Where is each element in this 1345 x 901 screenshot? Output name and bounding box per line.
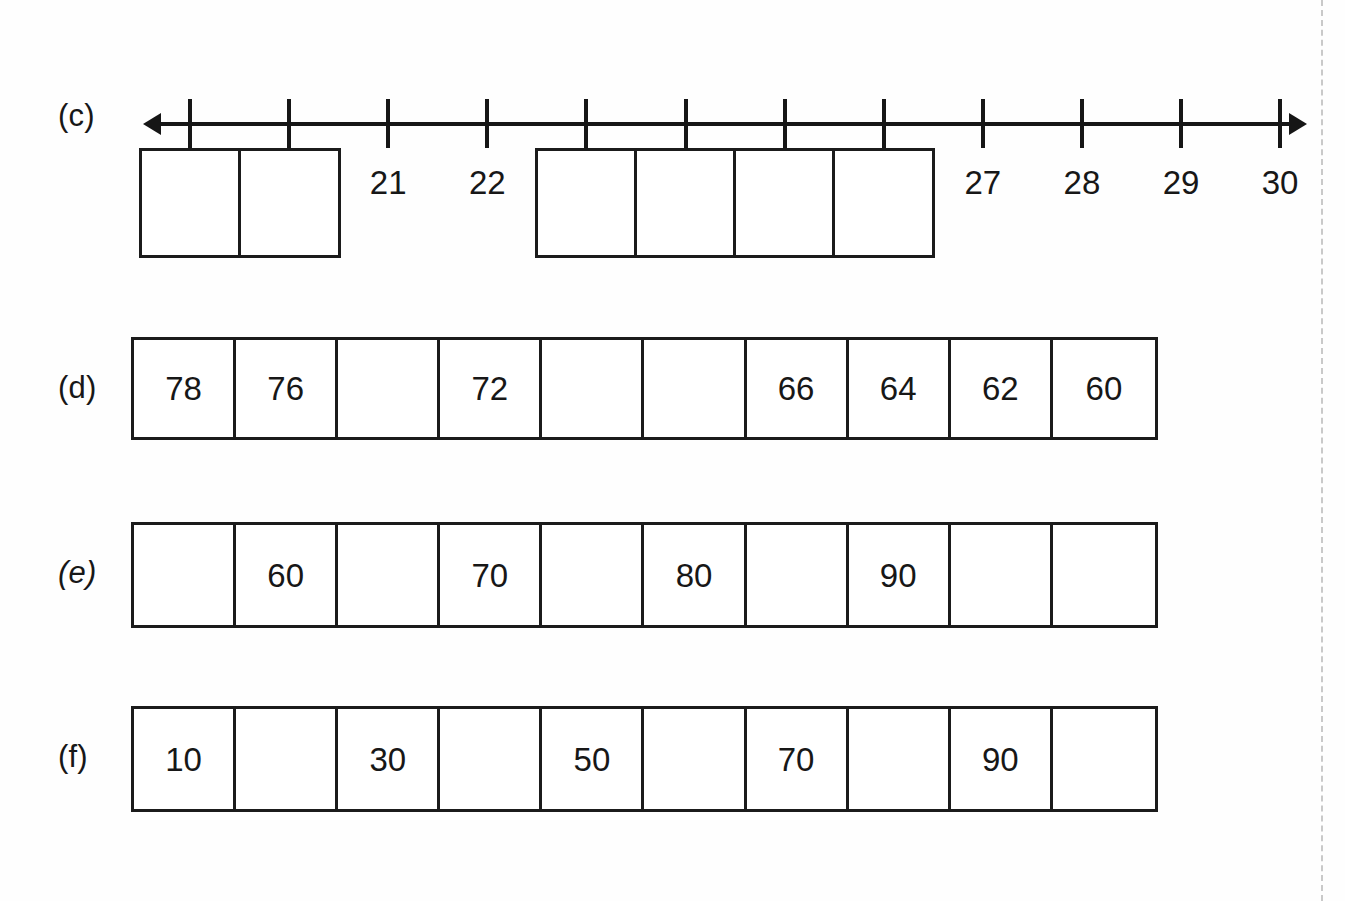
sequence-value-cell: 72: [440, 340, 542, 437]
number-line-left-arrow-icon: [143, 113, 161, 135]
number-line-tick: [188, 99, 192, 148]
part-label-f: (f): [58, 741, 88, 772]
sequence-answer-cell[interactable]: [747, 525, 849, 625]
sequence-answer-cell[interactable]: [542, 340, 644, 437]
sequence-answer-cell[interactable]: [236, 709, 338, 809]
sequence-answer-cell[interactable]: [849, 709, 951, 809]
sequence-value-cell: 90: [849, 525, 951, 625]
part-d-sequence-strip: 78767266646260: [131, 337, 1158, 440]
sequence-answer-cell[interactable]: [338, 340, 440, 437]
number-line-right-arrow-icon: [1289, 113, 1307, 135]
sequence-value-cell: 90: [951, 709, 1053, 809]
worksheet-page: (c) 212227282930 (d) 78767266646260 (e) …: [0, 0, 1345, 901]
number-line-tick: [981, 99, 985, 148]
number-line-value: 28: [1030, 164, 1133, 202]
sequence-answer-cell[interactable]: [1053, 525, 1155, 625]
number-line-value: 27: [931, 164, 1034, 202]
sequence-value-cell: 78: [134, 340, 236, 437]
part-label-d: (d): [58, 372, 97, 403]
number-line-tick: [1179, 99, 1183, 148]
sequence-value-cell: 50: [542, 709, 644, 809]
number-line-answer-box[interactable]: [139, 148, 242, 258]
number-line-answer-box[interactable]: [238, 148, 341, 258]
part-e-sequence-strip: 60708090: [131, 522, 1158, 628]
sequence-answer-cell[interactable]: [134, 525, 236, 625]
number-line-answer-box[interactable]: [832, 148, 935, 258]
sequence-value-cell: 70: [440, 525, 542, 625]
sequence-answer-cell[interactable]: [338, 525, 440, 625]
number-line-tick: [386, 99, 390, 148]
part-label-e: (e): [58, 557, 97, 588]
number-line-tick: [485, 99, 489, 148]
sequence-value-cell: 66: [747, 340, 849, 437]
number-line-tick: [783, 99, 787, 148]
sequence-value-cell: 62: [951, 340, 1053, 437]
number-line-answer-box[interactable]: [535, 148, 638, 258]
number-line-tick: [882, 99, 886, 148]
part-c-number-line: 212227282930: [0, 0, 1345, 280]
part-f-sequence-strip: 1030507090: [131, 706, 1158, 812]
sequence-answer-cell[interactable]: [1053, 709, 1155, 809]
number-line-answer-box[interactable]: [634, 148, 737, 258]
number-line-axis: [151, 122, 1300, 126]
sequence-value-cell: 64: [849, 340, 951, 437]
sequence-value-cell: 10: [134, 709, 236, 809]
number-line-tick: [1278, 99, 1282, 148]
number-line-value: 22: [436, 164, 539, 202]
number-line-value: 21: [337, 164, 440, 202]
number-line-tick: [684, 99, 688, 148]
number-line-value: 30: [1229, 164, 1332, 202]
number-line-value: 29: [1130, 164, 1233, 202]
sequence-answer-cell[interactable]: [644, 340, 746, 437]
number-line-answer-box[interactable]: [733, 148, 836, 258]
number-line-tick: [1080, 99, 1084, 148]
sequence-answer-cell[interactable]: [440, 709, 542, 809]
sequence-value-cell: 60: [236, 525, 338, 625]
sequence-value-cell: 30: [338, 709, 440, 809]
sequence-value-cell: 76: [236, 340, 338, 437]
sequence-answer-cell[interactable]: [644, 709, 746, 809]
sequence-value-cell: 70: [747, 709, 849, 809]
sequence-answer-cell[interactable]: [951, 525, 1053, 625]
number-line-tick: [584, 99, 588, 148]
number-line-tick: [287, 99, 291, 148]
sequence-answer-cell[interactable]: [542, 525, 644, 625]
sequence-value-cell: 60: [1053, 340, 1155, 437]
sequence-value-cell: 80: [644, 525, 746, 625]
